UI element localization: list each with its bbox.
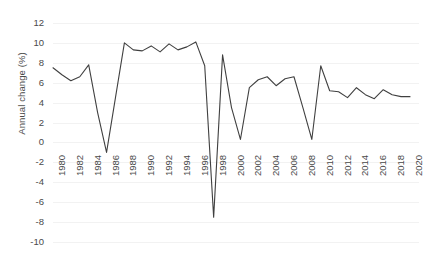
plot-area	[0, 0, 429, 261]
line-chart: Annual change (%) 121086420-2-4-6-8-10 1…	[0, 0, 429, 261]
data-series-line	[53, 42, 410, 217]
